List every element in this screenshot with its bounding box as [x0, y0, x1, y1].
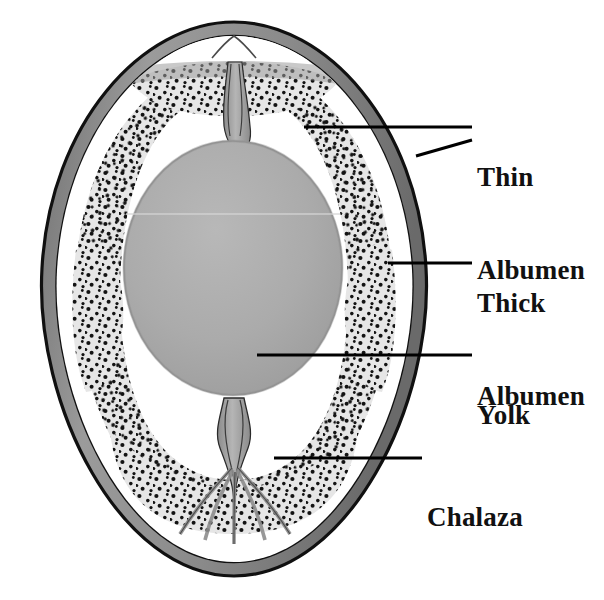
leader-line-thin-albumen-pointer	[416, 140, 472, 156]
label-thick-albumen-line1: Thick	[477, 288, 585, 319]
label-chalaza: Chalaza	[427, 440, 523, 595]
label-thin-albumen-line1: Thin	[477, 162, 585, 193]
yolk	[124, 141, 342, 395]
diagram-canvas: Thin Albumen Thick Albumen Yolk Chalaza	[0, 0, 604, 600]
label-yolk-line1: Yolk	[477, 400, 530, 431]
label-chalaza-line1: Chalaza	[427, 502, 523, 533]
